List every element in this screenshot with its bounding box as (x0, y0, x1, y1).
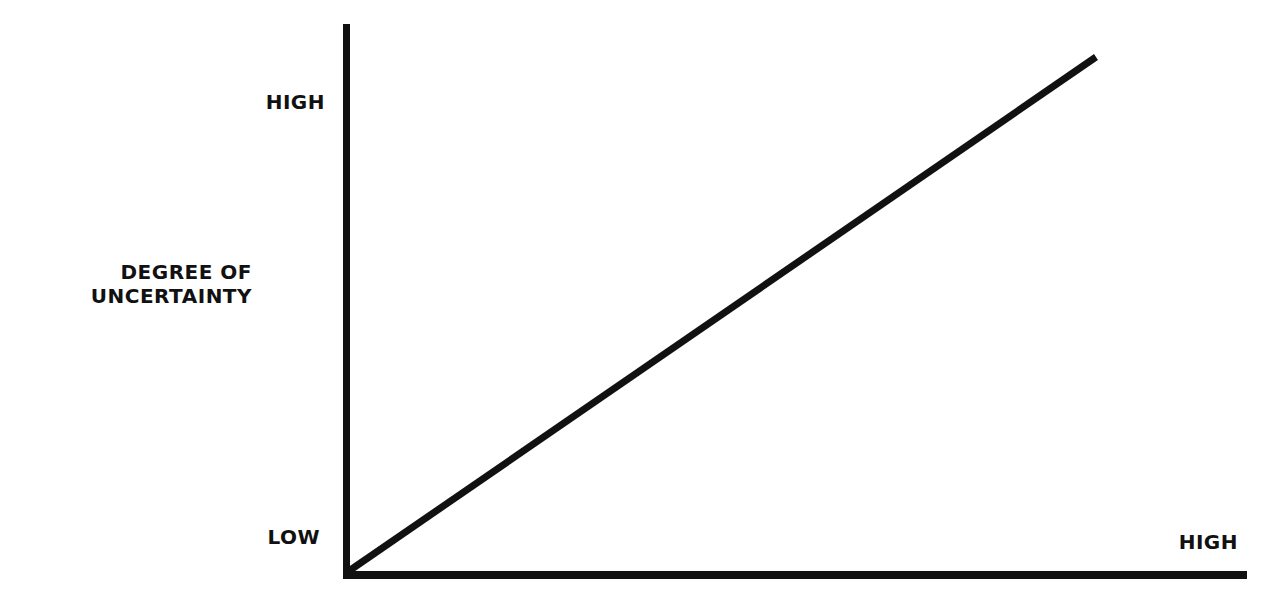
y-axis-title: DEGREE OF UNCERTAINTY (91, 260, 252, 308)
x-axis-high-label: HIGH (1179, 530, 1238, 554)
chart: HIGH DEGREE OF UNCERTAINTY LOW HIGH (0, 0, 1265, 613)
y-axis-title-line2: UNCERTAINTY (91, 284, 252, 308)
y-axis-high-label: HIGH (266, 90, 325, 114)
trend-line (346, 57, 1096, 573)
y-axis-low-label: LOW (267, 525, 320, 549)
y-axis-title-line1: DEGREE OF (91, 260, 252, 284)
